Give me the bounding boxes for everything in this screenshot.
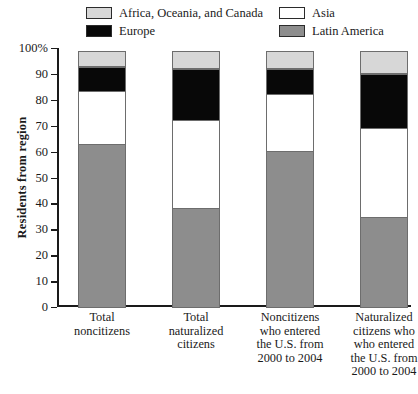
- bar-segment: [266, 51, 314, 69]
- y-axis-title: Residents from region: [15, 68, 30, 288]
- x-axis-label-2: Totalnaturalizedcitizens: [144, 311, 248, 352]
- bar-segment: [78, 144, 126, 308]
- x-axis-label-line: Noncitizens: [238, 311, 342, 325]
- y-tick-label: 0: [42, 301, 48, 313]
- x-axis-label-line: 2000 to 2004: [238, 352, 342, 366]
- y-tick-mark: [51, 74, 57, 75]
- x-axis-label-3: Noncitizenswho enteredthe U.S. from2000 …: [238, 311, 342, 365]
- bar-segment: [78, 67, 126, 93]
- bar-segment: [172, 120, 220, 209]
- bar-segment: [360, 128, 408, 219]
- y-tick-label: 70: [36, 120, 49, 132]
- bar-segment: [360, 51, 408, 74]
- y-tick-mark: [51, 307, 57, 308]
- bar-segment: [172, 69, 220, 121]
- x-axis-label-line: who entered: [332, 338, 418, 352]
- legend-item-asia: Asia: [279, 5, 335, 21]
- y-tick-mark: [51, 229, 57, 230]
- bar-segment: [360, 217, 408, 308]
- legend-label-asia: Asia: [312, 7, 335, 20]
- x-axis-label-line: citizens who: [332, 325, 418, 339]
- legend-swatch-latin-america: [279, 25, 305, 37]
- legend-label-africa-oceania-canada: Africa, Oceania, and Canada: [119, 7, 263, 20]
- x-axis-label-line: Total: [144, 311, 248, 325]
- legend-label-latin-america: Latin America: [312, 25, 384, 38]
- y-tick-mark: [51, 48, 57, 49]
- x-axis-label-1: Totalnoncitizens: [50, 311, 154, 338]
- y-axis-line: [57, 48, 59, 307]
- x-axis-label-4: Naturalizedcitizens whowho enteredthe U.…: [332, 311, 418, 379]
- x-axis-label-line: noncitizens: [50, 325, 154, 339]
- bar-3: [266, 51, 314, 307]
- y-tick-mark: [51, 152, 57, 153]
- stacked-bar-chart: Africa, Oceania, and Canada Asia Europe …: [0, 0, 418, 394]
- bar-segment: [78, 51, 126, 67]
- legend-item-africa-oceania-canada: Africa, Oceania, and Canada: [86, 5, 263, 21]
- x-axis-label-line: 2000 to 2004: [332, 365, 418, 379]
- bar-1: [78, 51, 126, 307]
- bar-2: [172, 51, 220, 307]
- y-tick-mark: [51, 126, 57, 127]
- y-tick-label: 90: [36, 68, 49, 80]
- y-tick-mark: [51, 100, 57, 101]
- chart-legend: Africa, Oceania, and Canada Asia Europe …: [86, 5, 416, 41]
- x-axis-label-line: citizens: [144, 338, 248, 352]
- legend-label-europe: Europe: [119, 25, 155, 38]
- x-axis-label-line: Total: [50, 311, 154, 325]
- x-axis-label-line: naturalized: [144, 325, 248, 339]
- bar-segment: [172, 208, 220, 308]
- x-axis-label-line: Naturalized: [332, 311, 418, 325]
- x-axis-label-line: the U.S. from: [332, 352, 418, 366]
- bar-segment: [266, 69, 314, 95]
- y-tick-mark: [51, 203, 57, 204]
- y-tick-label: 50: [36, 172, 49, 184]
- bar-segment: [266, 94, 314, 152]
- legend-swatch-asia: [279, 7, 305, 19]
- bar-segment: [266, 151, 314, 308]
- y-tick-label: 20: [36, 249, 49, 261]
- bar-4: [360, 51, 408, 307]
- legend-item-latin-america: Latin America: [279, 23, 384, 39]
- bar-segment: [78, 91, 126, 144]
- x-axis-label-line: who entered: [238, 325, 342, 339]
- bar-segment: [360, 74, 408, 128]
- bar-segment: [172, 51, 220, 69]
- x-axis-label-line: the U.S. from: [238, 338, 342, 352]
- plot-area: 0102030405060708090100% Totalnoncitizens…: [57, 48, 411, 307]
- y-tick-label: 40: [36, 197, 49, 209]
- y-tick-label: 30: [36, 223, 49, 235]
- y-tick-mark: [51, 281, 57, 282]
- legend-swatch-europe: [86, 25, 112, 37]
- legend-item-europe: Europe: [86, 23, 155, 39]
- y-tick-label: 60: [36, 146, 49, 158]
- legend-swatch-africa-oceania-canada: [86, 7, 112, 19]
- y-tick-label: 100%: [19, 42, 48, 54]
- y-tick-mark: [51, 255, 57, 256]
- y-tick-mark: [51, 178, 57, 179]
- y-tick-label: 10: [36, 275, 49, 287]
- y-tick-label: 80: [36, 94, 49, 106]
